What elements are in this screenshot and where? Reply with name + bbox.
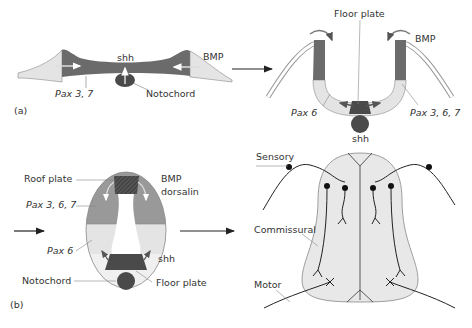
label-bmp-a2: BMP xyxy=(415,33,436,44)
label-pax367-b: Pax 3, 6, 7 xyxy=(26,199,76,210)
label-pax367-a2: Pax 3, 6, 7 xyxy=(410,107,460,118)
label-floor-plate-b: Floor plate xyxy=(156,277,207,288)
label-sensory: Sensory xyxy=(256,151,295,162)
label-notochord-a1: Notochord xyxy=(146,88,195,99)
label-bmp-a1: BMP xyxy=(203,51,224,62)
label-pax37: Pax 3, 7 xyxy=(55,88,93,99)
label-shh-b: shh xyxy=(158,253,175,264)
label-roof-plate: Roof plate xyxy=(24,173,72,184)
label-pax6-b: Pax 6 xyxy=(47,245,73,256)
label-notochord-b: Notochord xyxy=(22,275,71,286)
label-dorsalin: dorsalin xyxy=(161,186,199,197)
label-commissural: Commissural xyxy=(254,224,316,235)
label-shh-a2: shh xyxy=(352,133,369,144)
label-bmp-b: BMP xyxy=(161,173,182,184)
panel-label-a: (a) xyxy=(14,105,27,116)
label-shh-a1: shh xyxy=(117,52,134,63)
label-motor: Motor xyxy=(254,279,282,290)
label-floor-plate-a2: Floor plate xyxy=(334,8,385,19)
neural-tube-diagram: shh BMP Pax 3, 7 Notochord (a) Floor pla… xyxy=(0,0,472,328)
label-pax6-a2: Pax 6 xyxy=(291,107,317,118)
panel-label-b: (b) xyxy=(10,299,23,310)
